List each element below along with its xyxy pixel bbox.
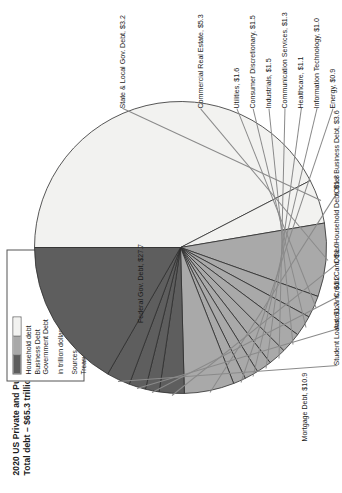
chart-canvas: 2020 US Private and Public Debt by Secto… [0,0,342,493]
legend-swatch-household [13,354,20,373]
legend-swatch-government [13,317,20,335]
slice-label: Industrials, $1.5 [264,58,272,108]
slice-label: Mortgage Debt, $10.9 [300,372,308,441]
slice-label: Utilities, $1.6 [232,67,240,108]
slice-label: Commercial Real Estate, $5.3 [196,14,204,108]
slice-label: Federal Gov. Debt, $27.7 [136,243,144,322]
slice-label: State & Local Gov. Debt, $3.2 [118,15,126,108]
slice-label: Energy, $0.9 [328,68,336,108]
legend-swatch-business [13,335,20,354]
slice-label: Information Technology, $1.0 [312,18,320,108]
legend-swatches [12,316,21,374]
slice-label: Student Loans, $1.7 [332,301,340,365]
slice-label: Healthcare, $1.1 [296,56,304,108]
slice-label: Consumer Discretionary, $1.5 [248,15,256,108]
slice-label: Communication Services, $1.3 [280,12,288,108]
rotated-figure: 2020 US Private and Public Debt by Secto… [0,0,342,493]
